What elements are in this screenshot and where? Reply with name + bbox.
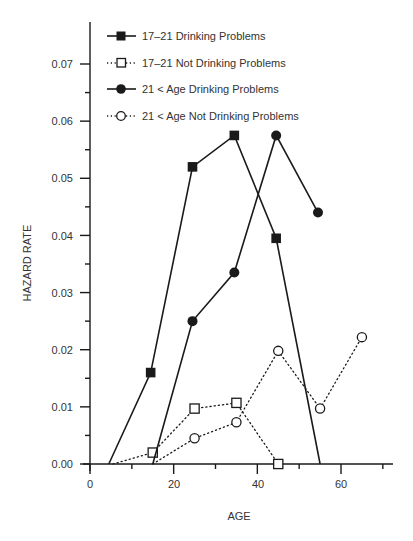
open-circle-marker xyxy=(232,418,241,427)
filled-circle-marker xyxy=(187,316,197,326)
y-axis-title: HAZARD RATE xyxy=(21,225,33,302)
legend: 17–21 Drinking Problems 17–21 Not Drinki… xyxy=(107,30,299,122)
open-circle-marker xyxy=(190,434,199,443)
legend-item-21-age-not-drinking: 21 < Age Not Drinking Problems xyxy=(107,110,299,122)
filled-square-marker xyxy=(271,233,281,243)
series-2 xyxy=(153,130,323,464)
y-tick-label: 0.01 xyxy=(52,401,73,413)
y-tick-label: 0.03 xyxy=(52,287,73,299)
solid-series-line xyxy=(109,135,320,464)
x-ticks xyxy=(90,464,383,474)
series-1 xyxy=(113,398,283,468)
x-tick-label: 40 xyxy=(252,478,264,490)
series-3 xyxy=(153,333,367,464)
legend-item-21-age-drinking: 21 < Age Drinking Problems xyxy=(107,83,279,95)
x-axis-title: AGE xyxy=(227,510,250,522)
y-tick-label: 0.02 xyxy=(52,344,73,356)
series-layer xyxy=(109,130,367,468)
y-tick-labels: 0.00 0.01 0.02 0.03 0.04 0.05 0.06 0.07 xyxy=(52,58,73,470)
y-ticks xyxy=(80,64,90,464)
x-tick-labels: 0 20 40 60 xyxy=(87,478,347,490)
legend-label: 21 < Age Not Drinking Problems xyxy=(142,110,299,122)
open-square-icon xyxy=(117,59,126,68)
y-tick-label: 0.05 xyxy=(52,172,73,184)
filled-square-marker xyxy=(188,162,198,172)
hazard-rate-chart: 0.00 0.01 0.02 0.03 0.04 0.05 0.06 0.07 … xyxy=(0,0,413,541)
legend-item-17-21-not-drinking: 17–21 Not Drinking Problems xyxy=(107,57,286,69)
legend-label: 21 < Age Drinking Problems xyxy=(142,83,279,95)
y-tick-label: 0.00 xyxy=(52,458,73,470)
filled-circle-icon xyxy=(116,84,126,94)
open-circle-marker xyxy=(315,404,324,413)
y-tick-label: 0.06 xyxy=(52,115,73,127)
open-circle-marker xyxy=(274,346,283,355)
dotted-series-line xyxy=(153,337,362,464)
x-tick-label: 20 xyxy=(168,478,180,490)
filled-square-icon xyxy=(117,32,126,41)
open-circle-icon xyxy=(117,112,126,121)
filled-square-marker xyxy=(146,368,156,378)
y-tick-label: 0.04 xyxy=(52,230,73,242)
x-tick-label: 0 xyxy=(87,478,93,490)
open-square-marker xyxy=(190,404,199,413)
filled-circle-marker xyxy=(229,268,239,278)
legend-label: 17–21 Drinking Problems xyxy=(142,30,266,42)
x-tick-label: 60 xyxy=(335,478,347,490)
filled-square-marker xyxy=(230,131,240,141)
legend-label: 17–21 Not Drinking Problems xyxy=(142,57,286,69)
series-0 xyxy=(109,131,320,464)
legend-item-17-21-drinking: 17–21 Drinking Problems xyxy=(107,30,266,42)
y-tick-label: 0.07 xyxy=(52,58,73,70)
open-square-marker xyxy=(232,398,241,407)
filled-circle-marker xyxy=(313,208,323,218)
open-circle-marker xyxy=(357,333,366,342)
filled-circle-marker xyxy=(271,130,281,140)
solid-series-line xyxy=(153,135,318,464)
open-square-marker xyxy=(274,459,283,468)
